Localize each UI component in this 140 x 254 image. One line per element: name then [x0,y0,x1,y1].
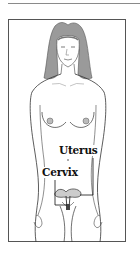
face [57,36,79,68]
female-body-illustration [0,0,140,254]
left-breast [42,112,66,127]
cervix-label: Cervix [41,167,79,178]
uterus-diagram [55,189,81,210]
right-breast [70,112,94,127]
uterus-label: Uterus [58,145,99,156]
torso-outline [30,74,61,242]
